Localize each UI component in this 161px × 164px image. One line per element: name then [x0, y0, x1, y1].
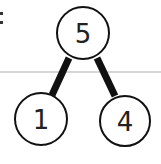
part-node-2: 4	[100, 96, 150, 146]
whole-label: 5	[75, 19, 92, 49]
colon-mark-bottom-dot	[0, 21, 3, 24]
part-label-1: 1	[33, 105, 50, 135]
edge-whole-to-part-1	[52, 58, 69, 95]
part-label-2: 4	[117, 107, 134, 137]
whole-node: 5	[57, 7, 109, 59]
part-node-1: 1	[15, 93, 67, 145]
colon-mark-top-dot	[0, 12, 3, 15]
number-bond-diagram: 5 1 4	[0, 0, 161, 164]
edge-whole-to-part-4	[97, 58, 115, 96]
